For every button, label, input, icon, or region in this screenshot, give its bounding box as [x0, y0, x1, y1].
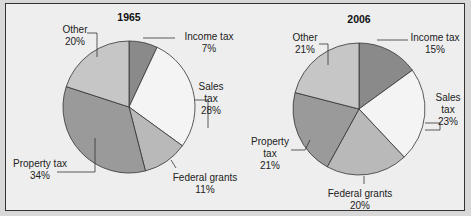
label-sales-tax-2: tax [204, 93, 217, 104]
label-property-tax: Property tax [13, 158, 67, 169]
label-federal-grants: Federal grants [173, 172, 237, 183]
value-other: 21% [295, 44, 315, 55]
label-sales-tax-2: tax [441, 104, 454, 115]
label-other: Other [62, 24, 88, 35]
value-other: 20% [65, 36, 85, 47]
pie-charts: 1965 Other 20% Income tax 7% Sales tax 2… [0, 0, 471, 216]
label-income-tax: Income tax [411, 32, 460, 43]
value-federal-grants: 20% [350, 200, 370, 211]
pie-chart-2006: 2006 Other 21% Income tax 15% Sales tax … [251, 13, 460, 211]
value-sales-tax: 23% [438, 116, 458, 127]
chart-title: 1965 [117, 11, 141, 23]
chart-title: 2006 [347, 13, 371, 25]
value-income-tax: 7% [202, 43, 217, 54]
label-income-tax: Income tax [185, 31, 234, 42]
pie-chart-1965: 1965 Other 20% Income tax 7% Sales tax 2… [13, 11, 237, 195]
value-sales-tax: 28% [201, 105, 221, 116]
label-other: Other [292, 32, 318, 43]
label-federal-grants: Federal grants [328, 188, 392, 199]
value-property-tax: 21% [260, 160, 280, 171]
value-income-tax: 15% [425, 44, 445, 55]
label-property-tax: Property [251, 136, 289, 147]
label-sales-tax: Sales [198, 81, 223, 92]
value-property-tax: 34% [30, 170, 50, 181]
label-sales-tax: Sales [435, 92, 460, 103]
value-federal-grants: 11% [195, 184, 214, 195]
label-property-tax-2: tax [263, 148, 276, 159]
